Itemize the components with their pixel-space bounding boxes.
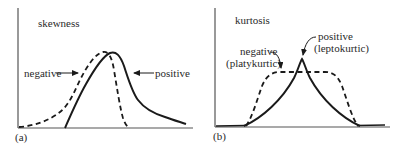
baseline-tail-right bbox=[357, 125, 385, 126]
positive-label-b-line1: positive bbox=[318, 30, 353, 42]
figure: skewness (a) negative positive kurtosis … bbox=[0, 0, 402, 147]
leptokurtic-curve bbox=[244, 59, 360, 126]
negative-label-b-line1: negative bbox=[240, 45, 277, 57]
baseline-tail-left bbox=[216, 126, 245, 127]
negative-skew-curve bbox=[19, 52, 130, 128]
negative-label-a: negative bbox=[24, 67, 61, 79]
kurtosis-title: kurtosis bbox=[235, 14, 270, 26]
positive-label-a: positive bbox=[155, 67, 190, 79]
negative-label-b-line2: (platykurtic) bbox=[226, 57, 281, 70]
platykurtic-curve bbox=[246, 72, 358, 126]
panel-label-a: (a) bbox=[15, 131, 28, 144]
panel-skewness: skewness (a) negative positive bbox=[15, 8, 193, 144]
positive-skew-curve bbox=[65, 53, 186, 128]
skewness-title: skewness bbox=[38, 17, 80, 29]
panel-label-b: (b) bbox=[213, 130, 226, 143]
positive-label-b-line2: (leptokurtic) bbox=[314, 42, 369, 55]
panel-kurtosis: kurtosis (b) negative (platykurtic) posi… bbox=[213, 8, 390, 143]
